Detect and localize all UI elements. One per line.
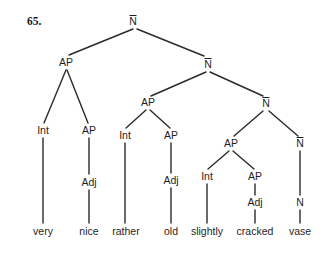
tree-node-ap: AP [248, 170, 262, 182]
tree-node-ap: AP [141, 96, 155, 108]
terminal-word: rather [112, 225, 140, 237]
tree-node-n-bar: N [204, 58, 212, 70]
tree-node-n-bar: N [262, 97, 270, 109]
tree-node-int: Int [119, 129, 131, 141]
tree-edge [69, 29, 133, 55]
tree-edge [137, 29, 204, 56]
tree-node-int: Int [201, 170, 213, 182]
terminal-word: very [33, 225, 54, 237]
tree-node-ap: AP [164, 129, 178, 141]
tree-node-n-bar: N [296, 137, 304, 149]
tree-edge [234, 111, 263, 136]
tree-edge [233, 151, 254, 169]
tree-edge [210, 72, 263, 96]
tree-node-adj: Adj [81, 176, 96, 188]
tree-node-ap: AP [59, 56, 73, 68]
tree-edge [151, 72, 206, 96]
tree-edge [126, 110, 146, 128]
tree-edge [67, 70, 88, 123]
terminal-word: cracked [237, 225, 274, 237]
tree-diagram: 65. NAPNIntAPAdjAPNIntAPAdjAPNIntAPAdjN … [0, 0, 329, 253]
tree-node-n-bar: N [129, 15, 137, 27]
terminal-word: vase [289, 225, 311, 237]
tree-node-n: N [296, 196, 304, 208]
terminal-word: nice [79, 225, 98, 237]
example-number: 65. [27, 15, 42, 27]
tree-edge [44, 70, 66, 123]
tree-edge [208, 151, 229, 169]
tree-nodes: NAPNIntAPAdjAPNIntAPAdjAPNIntAPAdjN [37, 15, 304, 208]
tree-node-adj: Adj [247, 196, 262, 208]
tree-node-int: Int [37, 124, 49, 136]
syntax-tree-figure: 65. NAPNIntAPAdjAPNIntAPAdjAPNIntAPAdjN … [0, 0, 329, 253]
terminal-words: veryniceratheroldslightlycrackedvase [33, 225, 311, 237]
tree-node-adj: Adj [163, 174, 178, 186]
terminal-word: slightly [191, 225, 224, 237]
tree-edge [150, 110, 170, 128]
tree-node-ap: AP [82, 124, 96, 136]
terminal-word: old [164, 225, 178, 237]
tree-edge [269, 111, 298, 136]
tree-node-ap: AP [224, 137, 238, 149]
